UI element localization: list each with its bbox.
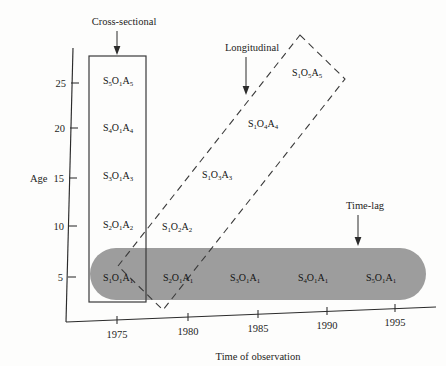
x-tick-label: 1985: [248, 323, 269, 334]
cell-label: S3O1A1: [230, 272, 260, 284]
y-tick-label: 10: [54, 221, 65, 232]
cell-label: S1O2A2: [162, 221, 193, 233]
cell-label: S4O1A1: [298, 272, 328, 284]
cell-label: S2O1A2: [103, 219, 134, 231]
y-axis-line: [66, 48, 73, 322]
y-tick-label: 25: [56, 78, 67, 89]
y-tick-25: 25: [56, 78, 80, 89]
x-tick-label: 1980: [178, 326, 199, 337]
figure-canvas: 25 20 15 10 5 Age 1975: [0, 0, 446, 366]
cell-label: S1O3A3: [202, 169, 233, 181]
cross-sectional-arrow-head: [114, 46, 121, 55]
y-tick-label: 5: [58, 272, 63, 283]
y-tick-label: 15: [54, 173, 65, 184]
cell-label: S3O1A3: [103, 170, 134, 182]
time-lag-arrow-head: [355, 237, 362, 246]
cell-label: S5O1A1: [366, 272, 396, 284]
cell-label: S1O1A1: [103, 272, 133, 284]
x-axis-title: Time of observation: [216, 351, 302, 362]
cell-label: S1O4A4: [248, 118, 279, 130]
x-axis-line: [66, 307, 436, 322]
x-tick-label: 1995: [385, 317, 406, 328]
annotation-time-lag: Time-lag: [346, 200, 385, 246]
y-tick-20: 20: [55, 123, 79, 134]
annotation-longitudinal: Longitudinal: [225, 42, 279, 95]
y-tick-label: 20: [55, 123, 66, 134]
cell-label: S4O1A4: [103, 122, 134, 134]
y-axis-title: Age: [30, 173, 48, 184]
time-lag-label: Time-lag: [346, 200, 385, 211]
longitudinal-label: Longitudinal: [225, 42, 279, 53]
cell-label: S1O5A5: [292, 67, 323, 79]
cell-label: S2O1A1: [163, 272, 193, 284]
cross-sectional-label: Cross-sectional: [92, 16, 157, 27]
x-tick-label: 1990: [317, 320, 338, 331]
x-tick-label: 1975: [107, 329, 128, 340]
annotation-cross-sectional: Cross-sectional: [92, 16, 157, 55]
cell-label: S5O1A5: [103, 75, 134, 87]
cohort-sequential-design-figure: 25 20 15 10 5 Age 1975: [0, 0, 446, 366]
y-tick-10: 10: [54, 221, 78, 232]
longitudinal-cell-labels: S1O2A2 S1O3A3 S1O4A4 S1O5A5: [162, 67, 323, 233]
x-tick-1995: 1995: [385, 304, 406, 328]
longitudinal-arrow-head: [243, 86, 250, 95]
y-tick-15: 15: [54, 173, 78, 184]
